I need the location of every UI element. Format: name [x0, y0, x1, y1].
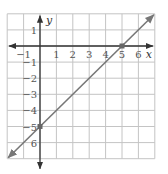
- data-series: [8, 15, 154, 158]
- data-point: [120, 44, 125, 49]
- data-point: [38, 124, 43, 129]
- y-tick-label: 6: [31, 138, 37, 149]
- coordinate-plane: −11234561−1−2−3−4−56xy: [0, 0, 168, 174]
- series-line: [8, 15, 154, 158]
- x-tick-label: 2: [70, 49, 76, 60]
- y-tick-label: −1: [22, 57, 37, 68]
- x-tick-label: 1: [53, 49, 59, 60]
- x-tick-label: 5: [119, 49, 125, 60]
- y-tick-label: −4: [22, 105, 37, 116]
- y-tick-label: −3: [22, 89, 37, 100]
- x-tick-label: 4: [102, 49, 108, 60]
- x-tick-label: 3: [86, 49, 92, 60]
- tick-labels: −11234561−1−2−3−4−56xy: [16, 14, 152, 149]
- x-tick-label: 6: [135, 49, 141, 60]
- y-tick-label: −2: [22, 73, 37, 84]
- y-axis-label: y: [45, 14, 53, 27]
- x-axis-label: x: [146, 48, 153, 61]
- y-tick-label: 1: [31, 25, 37, 36]
